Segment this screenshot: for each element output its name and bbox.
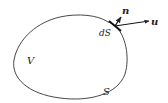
label-u: u [151,16,158,27]
label-V: V [27,55,36,66]
label-n: n [122,5,129,16]
velocity-vector-arrow [115,21,149,26]
normal-vector-arrow [115,17,121,26]
control-volume-diagram: n u dS V S [0,0,168,103]
label-dS: dS [99,28,111,38]
label-S: S [103,86,110,97]
